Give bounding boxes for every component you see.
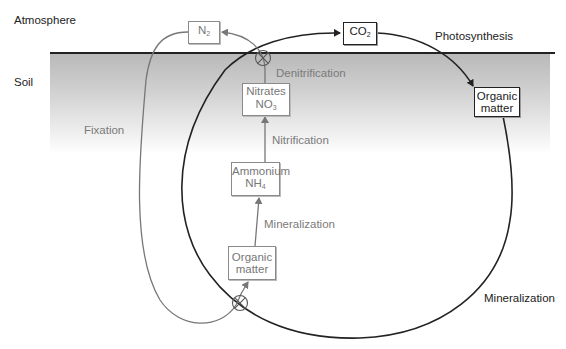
co2-node: CO2: [343, 22, 377, 45]
n2-label: N: [198, 24, 206, 36]
co2-label: CO: [349, 25, 366, 37]
no3-subscript: 3: [273, 104, 277, 111]
soil-label: Soil: [14, 76, 33, 89]
no3-label: NO: [255, 98, 272, 110]
organic-matter-surface-node: Organic matter: [474, 87, 520, 117]
n2-subscript: 2: [206, 30, 210, 37]
co2-subscript: 2: [367, 31, 371, 38]
matter-label: matter: [229, 263, 275, 276]
mineralization-nitrogen-label: Mineralization: [264, 218, 335, 231]
ammonium-node: Ammonium NH4: [231, 162, 280, 196]
nitrification-label: Nitrification: [272, 134, 329, 147]
organic-matter-soil-node: Organic matter: [228, 246, 276, 280]
organic-label: Organic: [229, 251, 275, 264]
photosynthesis-label: Photosynthesis: [435, 30, 513, 43]
denitrification-label: Denitrification: [276, 67, 346, 80]
nitrates-label: Nitrates: [243, 85, 289, 98]
mineralization-carbon-label: Mineralization: [484, 292, 555, 305]
ammonium-label: Ammonium: [232, 165, 279, 178]
nitrates-node: Nitrates NO3: [242, 83, 290, 116]
fixation-label: Fixation: [84, 124, 124, 137]
nh4-label: NH: [245, 177, 262, 189]
organic-label: Organic: [475, 90, 519, 103]
nh4-subscript: 4: [262, 183, 266, 190]
atmosphere-label: Atmosphere: [14, 14, 76, 27]
n2-node: N2: [188, 21, 220, 44]
matter-label: matter: [475, 102, 519, 115]
